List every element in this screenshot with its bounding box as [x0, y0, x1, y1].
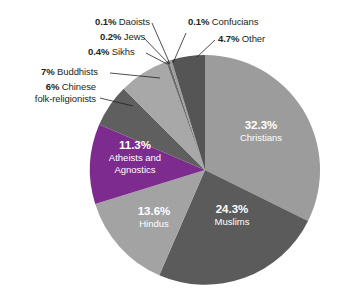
slice-label-atheists-pct: 11.3%: [91, 139, 179, 152]
callout-buddhists-pct: 7%: [41, 66, 55, 77]
slice-label-hindus-pct: 13.6%: [122, 205, 186, 218]
slice-label-hindus-name: Hindus: [122, 218, 186, 230]
callout-other-pct: 4.7%: [218, 33, 239, 44]
callout-other: 4.7% Other: [218, 33, 265, 45]
slice-label-christians-name: Christians: [222, 132, 300, 144]
callout-daoists: 0.1% Daoists: [95, 16, 150, 28]
callout-chinese-name-2: folk-religionists: [0, 93, 96, 105]
callout-jews-name: Jews: [124, 31, 145, 42]
callout-chinese-name-1: Chinese: [62, 81, 96, 92]
slice-label-atheists-name-2: Agnostics: [91, 164, 179, 176]
callout-confucians-pct: 0.1%: [188, 16, 209, 27]
pie-chart: 0.1% Daoists 0.2% Jews 0.4% Sikhs 7% Bud…: [0, 0, 341, 292]
callout-sikhs: 0.4% Sikhs: [88, 46, 135, 58]
callout-sikhs-name: Sikhs: [112, 46, 135, 57]
callout-sikhs-pct: 0.4%: [88, 46, 109, 57]
slice-label-atheists-agnostics: 11.3% Atheists and Agnostics: [91, 139, 179, 176]
callout-buddhists-name: Buddhists: [57, 66, 98, 77]
slice-label-christians-pct: 32.3%: [222, 119, 300, 132]
callout-chinese-folk-religionists: 6% Chinese folk-religionists: [0, 81, 96, 104]
slice-label-atheists-name-1: Atheists and: [91, 152, 179, 164]
callout-chinese-line1: 6% Chinese: [0, 81, 96, 93]
callout-daoists-name: Daoists: [119, 16, 150, 27]
callout-chinese-pct: 6%: [46, 81, 60, 92]
callout-daoists-pct: 0.1%: [95, 16, 116, 27]
callout-other-name: Other: [242, 33, 265, 44]
callout-confucians: 0.1% Confucians: [188, 16, 258, 28]
leader-line-other: [197, 40, 215, 57]
callout-buddhists: 7% Buddhists: [41, 66, 98, 78]
leader-line-jews: [144, 38, 169, 64]
slice-label-muslims-name: Muslims: [196, 216, 268, 228]
callout-jews-pct: 0.2%: [100, 31, 121, 42]
slice-label-hindus: 13.6% Hindus: [122, 205, 186, 230]
callout-jews: 0.2% Jews: [100, 31, 145, 43]
slice-label-muslims-pct: 24.3%: [196, 203, 268, 216]
callout-confucians-name: Confucians: [212, 16, 259, 27]
slice-label-christians: 32.3% Christians: [222, 119, 300, 144]
slice-label-muslims: 24.3% Muslims: [196, 203, 268, 228]
